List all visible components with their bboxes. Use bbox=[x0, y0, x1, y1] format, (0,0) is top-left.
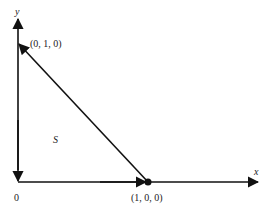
origin-label: 0 bbox=[14, 192, 19, 203]
point-marker-1-0-0 bbox=[145, 179, 152, 186]
simplex-diagram: y x 0 (0, 1, 0) (1, 0, 0) S bbox=[0, 0, 275, 211]
x-axis-label: x bbox=[253, 166, 259, 177]
y-axis-label: y bbox=[14, 6, 20, 17]
diagonal-edge bbox=[19, 44, 148, 182]
point-label-top: (0, 1, 0) bbox=[30, 38, 62, 50]
region-label: S bbox=[53, 134, 58, 145]
point-label-right: (1, 0, 0) bbox=[131, 192, 163, 204]
